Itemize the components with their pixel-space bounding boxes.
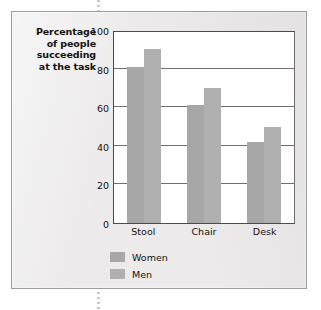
bar-group-chair xyxy=(174,32,234,223)
bar-desk-women xyxy=(247,142,264,223)
y-axis-title-line-2: of people xyxy=(14,38,96,50)
chart-legend: WomenMen xyxy=(110,250,168,284)
bar-group-desk xyxy=(234,32,294,223)
legend-item-men: Men xyxy=(110,267,168,281)
legend-swatch-men xyxy=(110,269,125,279)
y-axis-title-line-4: at the task xyxy=(14,61,96,73)
plot-wrapper: 020406080100 StoolChairDesk xyxy=(102,20,286,225)
x-tick-label-chair: Chair xyxy=(174,226,235,237)
bar-stool-men xyxy=(144,49,161,223)
legend-item-women: Women xyxy=(110,250,168,264)
legend-label-women: Women xyxy=(132,252,168,263)
registration-mark-bottom xyxy=(97,292,100,310)
screenshot-root: Percentage of people succeeding at the t… xyxy=(0,0,321,310)
x-axis-category-labels: StoolChairDesk xyxy=(113,226,295,237)
legend-label-men: Men xyxy=(132,269,152,280)
bar-stool-women xyxy=(127,67,144,223)
plot-area xyxy=(113,31,295,224)
bar-chair-women xyxy=(187,105,204,223)
bar-desk-men xyxy=(264,127,281,224)
x-tick-label-desk: Desk xyxy=(234,226,295,237)
y-axis-title: Percentage of people succeeding at the t… xyxy=(14,26,96,72)
y-axis-title-line-1: Percentage xyxy=(14,26,96,38)
bar-group-stool xyxy=(114,32,174,223)
bar-chair-men xyxy=(204,88,221,223)
y-axis-title-line-3: succeeding xyxy=(14,49,96,61)
x-tick-label-stool: Stool xyxy=(113,226,174,237)
bars-layer xyxy=(114,32,294,223)
legend-swatch-women xyxy=(110,252,125,262)
